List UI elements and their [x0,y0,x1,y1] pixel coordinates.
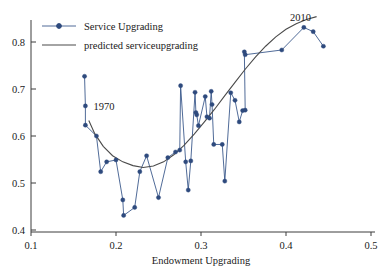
data-point-marker [302,25,306,29]
data-point-marker [220,142,224,146]
y-tick-label: 0.8 [12,37,25,48]
legend-swatch-marker-1 [57,24,62,29]
annotation-2010: 2010 [290,12,311,23]
axes-layer: 0.10.20.30.40.50.40.50.60.70.8 [12,20,378,251]
data-point-marker [179,84,183,88]
data-point-marker [243,53,247,57]
data-point-marker [207,116,211,120]
x-tick-label: 0.2 [109,240,122,251]
data-point-marker [233,98,237,102]
legend-layer: Service Upgradingpredicted serviceupgrad… [42,21,199,51]
data-point-marker [145,154,149,158]
data-point-marker [178,148,182,152]
scatter-plot: 0.10.20.30.40.50.40.50.60.70.8 19702010 … [0,0,386,274]
data-point-marker [173,150,177,154]
data-point-marker [186,188,190,192]
x-tick-label: 0.3 [194,240,207,251]
data-point-marker [193,90,197,94]
data-point-marker [166,156,170,160]
data-point-marker [311,30,315,34]
data-point-marker [99,170,103,174]
data-point-marker [280,48,284,52]
data-point-marker [82,74,86,78]
data-point-marker [203,94,207,98]
data-point-marker [122,213,126,217]
data-point-marker [223,179,227,183]
data-point-marker [184,160,188,164]
data-point-marker [195,113,199,117]
data-point-marker [121,198,125,202]
legend-label-2: predicted serviceupgrading [84,40,199,51]
data-point-marker [209,89,213,93]
data-point-marker [133,205,137,209]
data-point-marker [83,104,87,108]
x-tick-label: 0.4 [279,240,293,251]
x-tick-label: 0.5 [364,240,377,251]
y-tick-label: 0.6 [12,131,25,142]
chart-figure: 0.10.20.30.40.50.40.50.60.70.8 19702010 … [0,0,386,274]
data-point-marker [83,123,87,127]
data-point-marker [114,158,118,162]
y-tick-label: 0.7 [12,84,25,95]
data-point-marker [189,159,193,163]
data-point-marker [138,170,142,174]
y-tick-label: 0.4 [12,225,26,236]
data-point-marker [156,195,160,199]
annotation-1970: 1970 [94,101,115,112]
axis-labels-layer: Endowment Upgrading [152,255,251,266]
x-axis-title: Endowment Upgrading [152,255,251,266]
service-upgrading-line [85,27,324,215]
legend-label-1: Service Upgrading [84,21,164,32]
markers-layer [82,25,325,217]
data-point-marker [210,102,214,106]
y-tick-label: 0.5 [12,178,25,189]
data-point-marker [321,44,325,48]
data-point-marker [243,108,247,112]
x-tick-label: 0.1 [24,240,37,251]
data-point-marker [212,142,216,146]
data-point-marker [196,124,200,128]
data-point-marker [229,91,233,95]
data-point-marker [237,120,241,124]
data-point-marker [105,160,109,164]
data-point-marker [94,134,98,138]
